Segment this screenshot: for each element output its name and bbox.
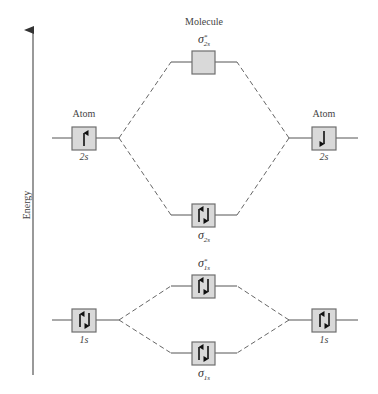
left-1s-label: 1s — [80, 334, 89, 345]
energy-axis-label: Energy — [21, 191, 32, 220]
sigma-star-2s-label: σ*2s — [198, 32, 210, 48]
molecule-header: Molecule — [185, 16, 223, 27]
mo-subscript: 2s — [204, 41, 210, 48]
right-atom-header: Atom — [313, 108, 336, 119]
mo-subscript: 1s — [204, 265, 210, 272]
mo-subscript: 2s — [204, 236, 210, 244]
orbital-box-left-1s — [72, 309, 96, 332]
orbital-box-sigma-star-1s — [192, 275, 215, 298]
sigma-star-1s-label: σ*1s — [198, 256, 210, 272]
orbital-box-sigma-1s — [192, 342, 215, 365]
orbital-box-sigma-star-2s — [192, 51, 215, 74]
mo-subscript: 1s — [204, 374, 210, 382]
left-atom-header: Atom — [73, 108, 96, 119]
left-2s-label: 2s — [80, 151, 89, 162]
right-1s-label: 1s — [320, 334, 329, 345]
orbital-box-sigma-2s — [192, 204, 215, 227]
right-2s-label: 2s — [320, 151, 329, 162]
sigma-1s-label: σ1s — [198, 366, 210, 382]
sigma-2s-label: σ2s — [198, 228, 210, 244]
orbital-box-right-1s — [312, 309, 336, 332]
